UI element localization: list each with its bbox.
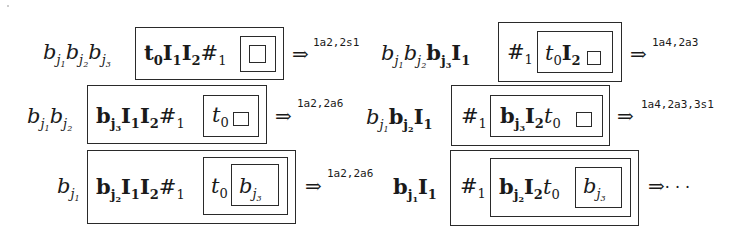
r1r-prefix: bj1bj2bj3I1 — [381, 42, 470, 65]
r3l-rule-label: 1a2,2a6 — [327, 168, 373, 179]
r3l-prefix: bj1 — [57, 176, 80, 198]
ellipsis: · · · — [665, 178, 690, 197]
r3l-arrow: ⇒ — [305, 176, 322, 196]
r1l-prefix: bj1bj2bj3 — [43, 42, 111, 64]
scan-speck — [7, 5, 9, 7]
r2l-outer-content: bj3I1I2#1 — [96, 105, 185, 127]
r2r-outer-content: #1 — [461, 106, 487, 127]
r3r-inner-content: bj3 — [583, 176, 606, 198]
r1r-rule-label: 1a4,2a3 — [652, 37, 698, 48]
r1l-empty-square — [249, 45, 266, 63]
r1l-rule-label: 1a2,2s1 — [313, 37, 359, 48]
r3l-inner-content: bj3 — [239, 176, 262, 198]
r1r-arrow: ⇒ — [630, 44, 647, 64]
r3r-prefix: bj1I1 — [393, 176, 437, 198]
r1l-outer-content: t0I1I2#1 — [144, 42, 226, 64]
r1r-empty-square — [587, 51, 601, 65]
r3r-middle-content: bj2I2t0 — [499, 176, 560, 198]
r3r-arrow: ⇒· · · — [648, 176, 690, 196]
r2l-arrow: ⇒ — [275, 106, 292, 126]
r2l-rule-label: 1a2,2a6 — [297, 98, 343, 109]
r2r-arrow: ⇒ — [617, 106, 634, 126]
r2l-empty-square — [233, 112, 249, 126]
r2r-inner-content: bj3I2t0 — [500, 105, 561, 127]
r3l-middle-content: t0 — [211, 176, 228, 197]
r2r-prefix: bj1bj2I1 — [366, 106, 433, 129]
r2l-inner-content: t0 — [212, 105, 229, 126]
r1r-inner-content: t0I2 — [545, 42, 581, 64]
r1r-outer-content: #1 — [507, 42, 533, 63]
r2r-empty-square — [576, 112, 592, 127]
r1l-arrow: ⇒ — [292, 44, 309, 64]
r2l-prefix: bj1bj2 — [27, 106, 72, 128]
r3r-outer-content: #1 — [460, 176, 486, 197]
r3l-outer-content: bj2I1I2#1 — [96, 176, 185, 198]
r2r-rule-label: 1a4,2a3,3s1 — [641, 99, 714, 110]
